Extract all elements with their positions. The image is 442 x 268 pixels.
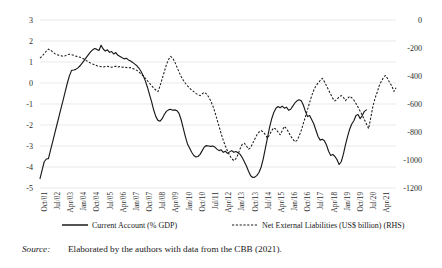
x-tick-Jul-08: Jul/08 bbox=[159, 192, 167, 210]
x-tick-Jan-19: Jan/19 bbox=[344, 192, 352, 211]
left-tick-2: 2 bbox=[29, 37, 33, 46]
right-tick--200: -200 bbox=[407, 44, 422, 53]
x-tick-Apr-12: Apr/12 bbox=[225, 192, 233, 213]
series-net-external-liabilities bbox=[40, 49, 396, 160]
left-tick-1: 1 bbox=[29, 58, 33, 67]
x-tick-Apr-09: Apr/09 bbox=[172, 192, 180, 213]
left-tick--5: -5 bbox=[26, 184, 33, 193]
series-current-account bbox=[40, 45, 367, 178]
x-axis-tick-labels: Oct/01Jul/02Apr/03Jan/04Oct/04Jul/05Apr/… bbox=[41, 192, 392, 213]
right-tick--600: -600 bbox=[407, 100, 422, 109]
x-tick-Apr-18: Apr/18 bbox=[331, 192, 339, 213]
x-tick-Jul-14: Jul/14 bbox=[265, 192, 273, 210]
left-tick--4: -4 bbox=[26, 163, 33, 172]
x-tick-Oct-10: Oct/10 bbox=[199, 192, 207, 212]
x-tick-Oct-16: Oct/16 bbox=[304, 192, 312, 212]
line-chart: 3210-1-2-3-4-5 0-200-400-600-800-1000-12… bbox=[0, 0, 442, 240]
x-tick-Jul-11: Jul/11 bbox=[212, 192, 220, 210]
x-tick-Apr-21: Apr/21 bbox=[383, 192, 391, 213]
x-tick-Jul-05: Jul/05 bbox=[107, 192, 115, 210]
right-tick--1000: -1000 bbox=[403, 156, 422, 165]
x-tick-Jan-10: Jan/10 bbox=[186, 192, 194, 211]
x-tick-Jul-17: Jul/17 bbox=[317, 192, 325, 210]
left-tick-3: 3 bbox=[29, 16, 33, 25]
left-tick--3: -3 bbox=[26, 142, 33, 151]
left-tick--1: -1 bbox=[26, 100, 33, 109]
x-tick-Jan-04: Jan/04 bbox=[80, 192, 88, 211]
x-tick-Jan-16: Jan/16 bbox=[291, 192, 299, 211]
source-note: Source: Elaborated by the authors with d… bbox=[0, 243, 442, 256]
right-axis-tick-labels: 0-200-400-600-800-1000-1200 bbox=[403, 16, 422, 193]
right-tick-0: 0 bbox=[418, 16, 422, 25]
x-tick-Apr-06: Apr/06 bbox=[120, 192, 128, 213]
x-tick-Oct-04: Oct/04 bbox=[93, 192, 101, 212]
x-tick-Oct-01: Oct/01 bbox=[41, 192, 49, 212]
legend-label-2: Net External Liabilities (US$ billion) (… bbox=[262, 221, 405, 230]
chart-legend: Current Account (% GDP)Net External Liab… bbox=[62, 221, 405, 230]
left-axis-tick-labels: 3210-1-2-3-4-5 bbox=[26, 16, 33, 193]
chart-plot-area: 3210-1-2-3-4-5 0-200-400-600-800-1000-12… bbox=[0, 0, 442, 240]
right-tick--400: -400 bbox=[407, 72, 422, 81]
right-tick--1200: -1200 bbox=[403, 184, 422, 193]
x-tick-Apr-15: Apr/15 bbox=[278, 192, 286, 213]
x-tick-Jan-13: Jan/13 bbox=[238, 192, 246, 211]
x-tick-Oct-19: Oct/19 bbox=[357, 192, 365, 212]
right-tick--800: -800 bbox=[407, 128, 422, 137]
x-tick-Apr-03: Apr/03 bbox=[67, 192, 75, 213]
x-tick-Jul-02: Jul/02 bbox=[54, 192, 62, 210]
gridlines-group bbox=[40, 20, 396, 188]
x-tick-Oct-13: Oct/13 bbox=[252, 192, 260, 212]
source-text: Elaborated by the authors with data from… bbox=[68, 243, 442, 256]
left-tick-0: 0 bbox=[29, 79, 33, 88]
left-tick--2: -2 bbox=[26, 121, 33, 130]
x-tick-Jan-07: Jan/07 bbox=[133, 192, 141, 211]
x-tick-Jul-20: Jul/20 bbox=[370, 192, 378, 210]
source-label: Source: bbox=[0, 243, 68, 256]
legend-label-1: Current Account (% GDP) bbox=[92, 221, 177, 230]
figure-container: 3210-1-2-3-4-5 0-200-400-600-800-1000-12… bbox=[0, 0, 442, 268]
x-tick-Oct-07: Oct/07 bbox=[146, 192, 154, 212]
